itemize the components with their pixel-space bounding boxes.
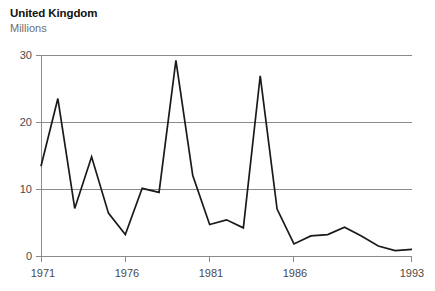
chart-container: United Kingdom Millions 0 10 <box>0 0 435 291</box>
y-tick-marks-group <box>36 56 41 257</box>
y-tick-label-0: 0 <box>26 250 32 262</box>
line-chart-plot: 0 10 20 30 1971 1976 1981 1986 1993 <box>0 0 435 291</box>
axis-lines-group <box>41 55 412 257</box>
y-tick-label-30: 30 <box>20 49 32 61</box>
y-tick-label-10: 10 <box>20 183 32 195</box>
x-tick-label-1981: 1981 <box>199 267 223 279</box>
y-tick-label-20: 20 <box>20 116 32 128</box>
x-tick-label-1986: 1986 <box>283 267 307 279</box>
y-tick-labels-group: 0 10 20 30 <box>20 49 32 262</box>
x-tick-label-1993: 1993 <box>400 267 424 279</box>
x-tick-label-1976: 1976 <box>115 267 139 279</box>
x-tick-labels-group: 1971 1976 1981 1986 1993 <box>31 267 424 279</box>
data-series-line <box>41 60 412 250</box>
gridlines-group <box>41 56 412 190</box>
x-tick-label-1971: 1971 <box>31 267 55 279</box>
